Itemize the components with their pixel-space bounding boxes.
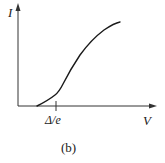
x-axis-arrow-icon	[149, 104, 157, 109]
iv-characteristic-figure: I V Δ/e (b)	[0, 0, 165, 163]
y-axis-arrow-icon	[16, 3, 21, 11]
y-axis-label: I	[8, 6, 12, 19]
x-axis-label: V	[143, 114, 151, 127]
plot-area	[0, 0, 165, 163]
figure-caption: (b)	[61, 141, 76, 154]
threshold-tick-label: Δ/e	[45, 114, 61, 126]
iv-curve	[37, 22, 120, 106]
